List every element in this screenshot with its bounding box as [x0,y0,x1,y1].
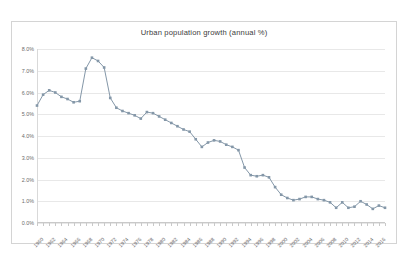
data-point-marker [36,104,39,107]
data-point-marker [139,117,142,120]
x-axis-tick-mark [354,223,355,226]
x-axis-tick-mark [330,223,331,226]
data-point-marker [109,97,112,100]
y-axis-tick-label: 3.0% [22,155,34,161]
x-axis-tick-mark [202,223,203,226]
x-axis-tick-label: 1976 [130,236,142,248]
y-axis-tick-label: 0.0% [22,220,34,226]
data-point-marker [127,112,130,115]
x-axis-tick-mark [61,223,62,226]
data-point-marker [262,174,265,177]
y-axis-tick-label: 4.0% [22,133,34,139]
data-point-marker [243,166,246,169]
x-axis-tick-mark [226,223,227,226]
x-axis-tick-mark [232,223,233,226]
x-axis-tick-mark [165,223,166,226]
data-point-marker [201,146,204,149]
data-point-marker [146,111,149,114]
data-point-marker [365,203,368,206]
x-axis-tick-mark [110,223,111,226]
data-point-marker [249,174,252,177]
x-axis-tick-mark [214,223,215,226]
x-axis-tick-mark [208,223,209,226]
x-axis-tick-mark [68,223,69,226]
x-axis-tick-mark [37,223,38,226]
x-axis-tick-label: 1980 [154,236,166,248]
data-point-marker [323,199,326,202]
x-axis-tick-label: 1972 [105,236,117,248]
data-point-marker [115,106,118,109]
data-point-marker [371,208,374,211]
x-axis-tick-label: 2008 [325,236,337,248]
x-axis-tick-mark [184,223,185,226]
chart-title: Urban population growth (annual %) [12,28,396,37]
x-axis-tick-mark [287,223,288,226]
x-axis-tick-label: 1998 [264,236,276,248]
x-axis-tick-mark [367,223,368,226]
data-point-marker [347,206,350,209]
data-point-marker [231,146,234,149]
x-axis-tick-mark [293,223,294,226]
x-axis-tick-mark [147,223,148,226]
data-point-marker [54,91,57,94]
x-axis-tick-mark [373,223,374,226]
x-axis-tick-label: 1974 [118,236,130,248]
data-point-marker [304,196,307,199]
x-axis-tick-mark [43,223,44,226]
x-axis-tick-mark [275,223,276,226]
data-point-marker [280,193,283,196]
data-point-marker [237,149,240,152]
data-point-marker [121,110,124,113]
data-point-marker [170,122,173,125]
x-axis-tick-label: 1990 [215,236,227,248]
y-axis-tick-label: 6.0% [22,90,34,96]
x-axis-tick-mark [281,223,282,226]
x-axis-tick-mark [92,223,93,226]
x-axis-tick-label: 1984 [179,236,191,248]
data-point-marker [182,128,185,131]
data-point-marker [60,96,63,99]
data-point-marker [48,89,51,92]
data-point-marker [378,204,381,207]
y-axis-tick-label: 2.0% [22,177,34,183]
chart-container: Urban population growth (annual %) 0.0%1… [11,21,397,244]
x-axis-tick-mark [238,223,239,226]
data-point-marker [213,139,216,142]
data-point-marker [72,101,75,104]
x-axis-tick-mark [55,223,56,226]
data-point-marker [274,186,277,189]
y-axis-tick-label: 5.0% [22,111,34,117]
x-axis-tick-mark [318,223,319,226]
x-axis-tick-mark [129,223,130,226]
x-axis-tick-mark [251,223,252,226]
data-point-marker [164,118,167,121]
x-axis-tick-mark [312,223,313,226]
data-point-marker [341,201,344,204]
plot-area: 0.0%1.0%2.0%3.0%4.0%5.0%6.0%7.0%8.0% 196… [37,49,385,223]
x-axis-tick-mark [80,223,81,226]
data-point-marker [194,138,197,141]
x-axis-tick-mark [171,223,172,226]
data-point-marker [292,199,295,202]
gridline [37,223,385,224]
x-axis-tick-label: 1966 [69,236,81,248]
x-axis-tick-mark [49,223,50,226]
data-point-marker [91,56,94,59]
x-axis-tick-label: 1978 [142,236,154,248]
data-point-marker [335,206,338,209]
x-axis-tick-mark [385,223,386,226]
x-axis-tick-mark [104,223,105,226]
x-axis-tick-label: 1962 [44,236,56,248]
y-axis-tick-label: 8.0% [22,46,34,52]
data-point-marker [310,196,313,199]
data-series-line [37,49,385,223]
x-axis-tick-mark [122,223,123,226]
data-point-marker [158,115,161,118]
data-point-marker [268,176,271,179]
x-axis-tick-mark [342,223,343,226]
x-axis-tick-mark [245,223,246,226]
x-axis-tick-mark [269,223,270,226]
data-point-marker [133,114,136,117]
x-axis-tick-label: 1986 [191,236,203,248]
data-point-marker [97,60,100,63]
